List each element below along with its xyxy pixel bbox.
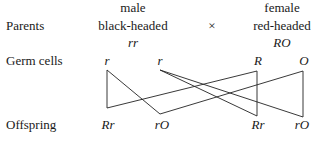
offspring-2: rO	[155, 118, 169, 132]
line-R-to-offspring1	[107, 71, 257, 108]
line-r2-to-offspring3	[160, 70, 257, 116]
line-r1-to-offspring2	[107, 70, 160, 114]
offspring-4: rO	[295, 118, 309, 132]
offspring-3: Rr	[252, 118, 265, 132]
offspring-1: Rr	[102, 118, 115, 132]
